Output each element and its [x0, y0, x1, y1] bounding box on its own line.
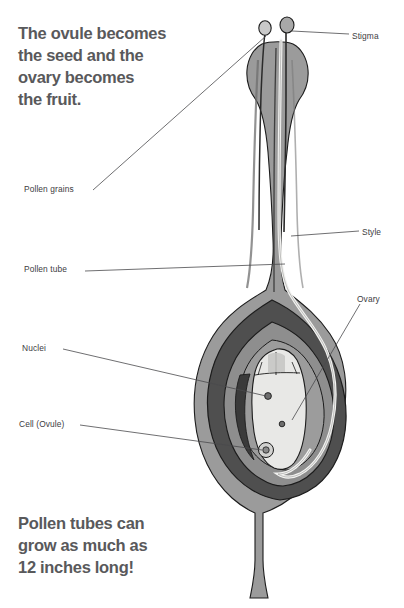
label-stigma: Stigma: [352, 31, 379, 41]
leader-line-style: [291, 231, 359, 236]
headline-bottom: Pollen tubes can grow as much as 12 inch…: [18, 512, 228, 578]
label-cell-ovule: Cell (Ovule): [19, 419, 64, 429]
leader-line-stigma: [292, 31, 349, 34]
ovule-cell-shade-top: [268, 353, 285, 372]
label-pollen-grains: Pollen grains: [24, 184, 74, 194]
stigma-lobe-right: [280, 17, 294, 33]
stigma-lobe-left: [259, 21, 271, 35]
label-ovary: Ovary: [357, 294, 380, 304]
egg-cell-nucleus: [263, 447, 269, 453]
headline-top: The ovule becomes the seed and the ovary…: [18, 22, 218, 110]
nucleus-dot-middle: [279, 421, 285, 427]
label-nuclei: Nuclei: [22, 343, 46, 353]
leader-line-pollen-tube: [85, 264, 285, 271]
diagram-page: The ovule becomes the seed and the ovary…: [0, 0, 404, 608]
label-pollen-tube: Pollen tube: [24, 264, 67, 274]
label-style: Style: [362, 227, 381, 237]
